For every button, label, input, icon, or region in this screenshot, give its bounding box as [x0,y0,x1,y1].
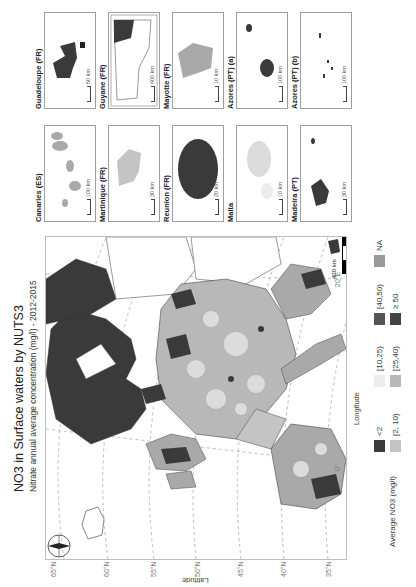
inset-scalebar: 100 km [85,179,91,215]
lat-tick-35: 35°N [325,561,332,577]
inset-madeira: 30 km [300,125,352,222]
inset-scalebar: 30 km [149,182,155,215]
legend-swatch [390,375,401,387]
inset-scalebar: 100 km [341,66,347,102]
legend: Average NO3 (mg/l) <2 [2, 10) [10,25) [2… [368,227,412,547]
legend-item-ge50: ≥ 50 [390,293,401,325]
inset-title-malta: Malta [226,203,235,222]
legend-swatch [374,440,385,452]
inset-title-martinique: Martinique (FR) [98,167,107,222]
inset-title-guyane: Guyane (FR) [98,64,107,109]
inset-scalebar: 50 km [85,69,91,102]
europe-map-graphic [46,237,346,559]
legend-swatch [390,440,401,452]
inset-title-azores-a: Azores (PT) (a) [226,56,235,109]
legend-item-2-10: [2, 10) [390,413,401,452]
lon-tick-0: 0° [334,464,341,471]
inset-azores-b: 100 km [300,12,352,109]
inset-scalebar: 30 km [341,182,347,215]
legend-item-25-40: [25,40) [390,346,401,387]
inset-mayotte: 10 km [172,12,224,109]
lat-tick-60: 60°N [103,561,110,577]
lat-tick-50: 50°N [194,561,201,577]
inset-title-azores-b: Azores (PT) (b) [290,56,299,109]
inset-title-madeira: Madeira (PT) [290,177,299,222]
north-arrow-icon [46,533,72,559]
legend-item-na: NA [374,240,385,267]
legend-title: Average NO3 (mg/l) [388,476,397,547]
inset-title-guadeloupe: Guadeloupe (FR) [34,49,43,109]
legend-item-lt2: <2 [374,427,385,452]
legend-swatch [390,313,401,325]
inset-malta: 10 km [236,125,288,222]
scalebar [342,236,347,274]
inset-azores-a: 100 km [236,12,288,109]
inset-scalebar: 10 km [213,69,219,102]
map-title: NO3 in Surface waters by NUTS3 [12,305,26,492]
europe-choropleth-map: 400 km 0° 20°E [45,236,347,560]
inset-guadeloupe: 50 km [44,12,96,109]
inset-title-mayotte: Mayotte (FR) [162,64,171,109]
lon-tick-20e: 20°E [334,272,341,287]
legend-swatch [374,255,385,267]
map-subtitle: Nitrate annual average concentration (mg… [28,280,38,492]
legend-item-10-25: [10,25) [374,346,385,387]
legend-item-40-50: [40,50) [374,284,385,325]
lat-tick-55: 55°N [150,561,157,577]
inset-scalebar: 10 km [277,182,283,215]
longitude-axis-title: Longitude [352,392,361,425]
lat-tick-45: 45°N [237,561,244,577]
inset-title-canaries: Canaries (ES) [34,173,43,222]
inset-canaries: 100 km [44,125,96,222]
legend-swatch [374,313,385,325]
inset-scalebar: 400 km [149,66,155,102]
inset-guyane: 400 km [108,12,160,109]
lat-tick-40: 40°N [280,561,287,577]
inset-reunion: 20 km [172,125,224,222]
rotated-figure: NO3 in Surface waters by NUTS3 Nitrate a… [0,0,416,587]
inset-title-reunion: Reunion (FR) [162,175,171,222]
latitude-axis-title: Latitude [182,576,209,585]
inset-scalebar: 100 km [277,66,283,102]
inset-martinique: 30 km [108,125,160,222]
inset-scalebar: 20 km [213,182,219,215]
legend-swatch [374,375,385,387]
lat-tick-65: 65°N [50,561,57,577]
